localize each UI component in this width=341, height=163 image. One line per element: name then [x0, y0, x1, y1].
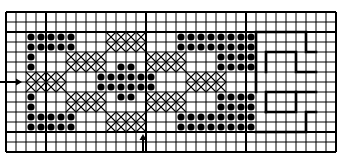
cross-stitch-icon [156, 62, 166, 72]
dot-stitch-icon [147, 73, 154, 80]
cross-stitch-icon [176, 102, 186, 112]
cross-stitch-icon [96, 92, 106, 102]
dot-stitch-icon [217, 123, 224, 130]
dot-stitch-icon [247, 123, 254, 130]
cross-stitch-icon [126, 42, 136, 52]
dot-stitch-icon [237, 33, 244, 40]
dot-stitch-icon [127, 63, 134, 70]
dot-stitch-icon [67, 113, 74, 120]
dot-stitch-icon [37, 33, 44, 40]
dot-stitch-icon [227, 63, 234, 70]
dot-stitch-icon [227, 33, 234, 40]
dot-stitch-icon [217, 53, 224, 60]
dot-stitch-icon [247, 103, 254, 110]
dot-stitch-icon [97, 83, 104, 90]
dot-stitch-icon [117, 63, 124, 70]
dot-stitch-icon [27, 63, 34, 70]
cross-stitch-icon [116, 122, 126, 132]
dot-stitch-icon [227, 123, 234, 130]
dot-stitch-icon [247, 113, 254, 120]
dot-stitch-icon [237, 63, 244, 70]
dot-stitch-icon [247, 63, 254, 70]
cross-stitch-icon [106, 42, 116, 52]
cross-stitch-icon [76, 52, 86, 62]
cross-stitch-icon [106, 32, 116, 42]
dot-stitch-icon [247, 43, 254, 50]
dot-stitch-icon [217, 63, 224, 70]
cross-stitch-icon [126, 112, 136, 122]
cross-stitch-icon [106, 122, 116, 132]
dot-stitch-icon [227, 53, 234, 60]
dot-stitch-icon [47, 33, 54, 40]
cross-stitch-icon [216, 82, 226, 92]
dot-stitch-icon [137, 73, 144, 80]
dot-stitch-icon [127, 83, 134, 90]
dot-stitch-icon [37, 43, 44, 50]
cross-stitch-icon [166, 102, 176, 112]
cross-stitch-icon [96, 62, 106, 72]
dot-stitch-icon [117, 73, 124, 80]
dot-stitch-icon [197, 43, 204, 50]
dot-stitch-icon [217, 33, 224, 40]
cross-stitch-icon [136, 112, 146, 122]
dot-stitch-icon [227, 43, 234, 50]
cross-stitch-icon [196, 82, 206, 92]
dot-stitch-icon [117, 93, 124, 100]
dot-stitch-icon [177, 33, 184, 40]
dot-stitch-icon [207, 123, 214, 130]
cross-stitch-icon [76, 62, 86, 72]
cross-stitch-icon [116, 112, 126, 122]
cross-stitch-icon [116, 42, 126, 52]
dot-stitch-icon [187, 33, 194, 40]
cross-stitch-icon [186, 72, 196, 82]
cross-stitch-icon [146, 52, 156, 62]
dot-stitch-icon [217, 43, 224, 50]
dot-stitch-icon [27, 123, 34, 130]
dot-stitch-icon [47, 113, 54, 120]
dot-stitch-icon [197, 123, 204, 130]
cross-stitch-icon [96, 102, 106, 112]
cross-stitch-icon [106, 112, 116, 122]
cross-stitch-icon [186, 82, 196, 92]
cross-stitch-icon [86, 62, 96, 72]
dot-stitch-icon [247, 33, 254, 40]
dot-stitch-icon [237, 113, 244, 120]
dot-stitch-icon [27, 103, 34, 110]
dot-stitch-icon [27, 33, 34, 40]
cross-stitch-icon [86, 102, 96, 112]
cross-stitch-icon [146, 62, 156, 72]
cross-stitch-icon [136, 122, 146, 132]
dot-stitch-icon [237, 123, 244, 130]
dot-stitch-icon [197, 113, 204, 120]
dot-stitch-icon [237, 43, 244, 50]
cross-stitch-icon [166, 62, 176, 72]
cross-stitch-icon [156, 102, 166, 112]
dot-stitch-icon [137, 83, 144, 90]
cross-stitch-icon [146, 102, 156, 112]
cross-stitch-icon [156, 52, 166, 62]
dot-stitch-icon [67, 33, 74, 40]
dot-stitch-icon [57, 43, 64, 50]
dot-stitch-icon [207, 33, 214, 40]
dot-stitch-icon [107, 73, 114, 80]
dot-stitch-icon [47, 123, 54, 130]
dot-stitch-icon [187, 123, 194, 130]
cross-stitch-icon [66, 52, 76, 62]
dot-stitch-icon [147, 83, 154, 90]
cross-stitch-icon [176, 92, 186, 102]
cross-stitch-icon [86, 52, 96, 62]
dot-stitch-icon [247, 93, 254, 100]
dot-stitch-icon [127, 93, 134, 100]
cross-stitch-icon [66, 102, 76, 112]
dot-stitch-icon [227, 113, 234, 120]
dot-stitch-icon [197, 33, 204, 40]
cross-stitch-icon [86, 92, 96, 102]
cross-stitch-icon [76, 102, 86, 112]
cross-stitch-icon [196, 72, 206, 82]
cross-stitch-icon [76, 92, 86, 102]
dot-stitch-icon [217, 93, 224, 100]
cross-stitch-icon [136, 32, 146, 42]
dot-stitch-icon [227, 93, 234, 100]
cross-stitch-icon [206, 82, 216, 92]
dot-stitch-icon [177, 113, 184, 120]
